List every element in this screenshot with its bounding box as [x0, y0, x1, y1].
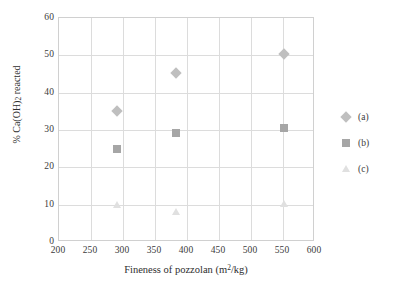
y-axis-title: % Ca(OH)2 reacted: [11, 25, 24, 185]
data-point-b: [113, 145, 121, 153]
y-axis-title-text: % Ca(OH)2 reacted: [11, 65, 22, 143]
data-point-c: [280, 200, 288, 207]
gridline-horizontal: [59, 55, 313, 56]
gridline-horizontal: [59, 205, 313, 206]
y-tick-label: 60: [26, 12, 54, 22]
gridline-horizontal: [59, 167, 313, 168]
diamond-glyph: [340, 111, 351, 122]
data-point-c: [113, 201, 121, 208]
gridline-horizontal: [59, 130, 313, 131]
data-point-c: [172, 208, 180, 215]
data-point-a: [111, 105, 122, 116]
legend-item-b[interactable]: (b): [340, 130, 396, 156]
legend-label: (c): [358, 164, 369, 174]
data-point-a: [279, 48, 290, 59]
gridline-vertical: [123, 18, 124, 240]
scatter-chart-figure: 0102030405060 % Ca(OH)2 reacted 20025030…: [0, 0, 397, 290]
gridline-vertical: [91, 18, 92, 240]
x-axis-tick-labels: 200250300350400450500550600: [58, 245, 314, 259]
diamond-marker-icon: [340, 111, 352, 123]
square-marker-icon: [340, 137, 352, 149]
data-point-a: [170, 68, 181, 79]
gridline-vertical: [251, 18, 252, 240]
triangle-marker-icon: [340, 163, 352, 175]
gridline-vertical: [219, 18, 220, 240]
triangle-glyph: [342, 165, 350, 172]
y-axis-tick-labels: 0102030405060: [22, 17, 54, 241]
x-axis-title: Fineness of pozzolan (m2/kg): [58, 262, 314, 276]
x-tick-label: 600: [294, 245, 334, 255]
y-axis-title-subscript: 2: [14, 97, 23, 101]
y-tick-label: 30: [26, 124, 54, 134]
x-axis-title-superscript: 2: [227, 263, 231, 272]
y-tick-label: 50: [26, 49, 54, 59]
y-tick-label: 20: [26, 161, 54, 171]
plot-area: [58, 17, 314, 241]
y-tick-label: 10: [26, 199, 54, 209]
legend-label: (b): [358, 138, 369, 148]
data-point-b: [280, 124, 288, 132]
legend-label: (a): [358, 112, 369, 122]
gridline-vertical: [187, 18, 188, 240]
x-axis-title-text: Fineness of pozzolan (m2/kg): [124, 264, 248, 275]
y-tick-label: 40: [26, 87, 54, 97]
legend-item-a[interactable]: (a): [340, 104, 396, 130]
chart-legend: (a)(b)(c): [340, 104, 396, 182]
legend-item-c[interactable]: (c): [340, 156, 396, 182]
data-point-b: [172, 129, 180, 137]
gridline-horizontal: [59, 93, 313, 94]
gridline-vertical: [155, 18, 156, 240]
square-glyph: [342, 139, 350, 147]
